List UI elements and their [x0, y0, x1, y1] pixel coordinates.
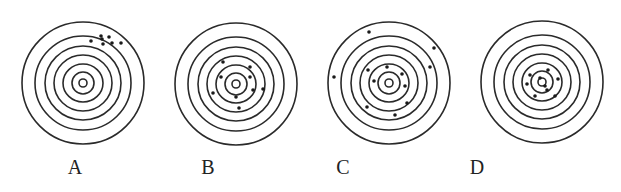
shot-dot	[538, 76, 542, 80]
target-ring	[232, 80, 240, 88]
shot-dot	[332, 75, 336, 79]
target-ring	[188, 37, 284, 131]
shot-dot	[365, 105, 369, 109]
target-ring	[481, 21, 603, 143]
target-ring	[504, 45, 580, 119]
shot-dot	[237, 106, 241, 110]
target-ring	[494, 35, 590, 129]
target-ring	[35, 36, 131, 130]
shot-dot	[248, 75, 252, 79]
shot-dot	[372, 79, 376, 83]
target-ring	[351, 46, 427, 120]
shot-dot	[405, 101, 409, 105]
shot-dot	[219, 75, 223, 79]
label-a: A	[60, 156, 90, 179]
target-ring	[79, 79, 87, 87]
shot-dot	[248, 65, 252, 69]
label-d: D	[462, 156, 492, 179]
target-ring	[198, 47, 274, 121]
shot-dot	[251, 88, 255, 92]
shot-dot	[525, 82, 529, 86]
shot-dot	[385, 65, 389, 69]
target-ring	[369, 64, 409, 102]
label-c: C	[328, 156, 358, 179]
shot-dot	[221, 60, 225, 64]
targets-figure	[0, 0, 621, 192]
target-d	[481, 21, 603, 143]
shot-dot	[367, 30, 371, 34]
shot-dot	[261, 87, 265, 91]
target-ring	[328, 22, 450, 144]
target-ring	[63, 64, 103, 102]
shot-dot	[110, 41, 114, 45]
shot-dot	[545, 88, 549, 92]
shot-dot	[533, 94, 537, 98]
shot-dot	[101, 42, 105, 46]
shot-dot	[428, 65, 432, 69]
target-ring	[175, 23, 297, 145]
target-b	[175, 23, 297, 145]
target-ring	[22, 22, 144, 144]
shot-dot	[546, 68, 550, 72]
shot-dot	[432, 46, 436, 50]
shot-dot	[234, 95, 238, 99]
shot-dot	[211, 91, 215, 95]
target-ring	[341, 36, 437, 130]
target-ring	[72, 72, 94, 94]
shot-dot	[119, 41, 123, 45]
target-ring	[385, 79, 393, 87]
shot-dot	[89, 39, 93, 43]
shot-dot	[400, 72, 404, 76]
shot-dot	[403, 84, 407, 88]
shot-dot	[556, 77, 560, 81]
label-b: B	[193, 156, 223, 179]
shot-dot	[100, 37, 104, 41]
target-ring	[45, 46, 121, 120]
shot-dot	[366, 68, 370, 72]
target-ring	[378, 72, 400, 94]
target-c	[328, 22, 450, 144]
shot-dot	[107, 35, 111, 39]
shot-dot	[543, 84, 547, 88]
target-ring	[225, 73, 247, 95]
target-a	[22, 22, 144, 144]
shot-dot	[553, 94, 557, 98]
shot-dot	[528, 73, 532, 77]
shot-dot	[393, 113, 397, 117]
target-ring	[531, 71, 553, 93]
